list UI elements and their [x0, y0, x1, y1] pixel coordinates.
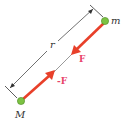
distance-dimension [5, 5, 103, 98]
mass-m-dot [101, 17, 108, 24]
gravitation-diagram: r F -F m M [0, 0, 125, 124]
force-arrow-neg-F [22, 70, 55, 100]
center-line [53, 53, 73, 73]
force-label-neg-F: -F [57, 76, 68, 86]
dimension-line-upper [58, 9, 93, 41]
mass-M-label: M [14, 109, 26, 120]
distance-label: r [50, 39, 56, 50]
mass-M-dot [17, 97, 24, 104]
force-label-F: F [79, 54, 86, 64]
extension-line-bottom [5, 86, 17, 98]
force-arrow-F [71, 23, 104, 55]
mass-m-label: m [111, 15, 120, 26]
